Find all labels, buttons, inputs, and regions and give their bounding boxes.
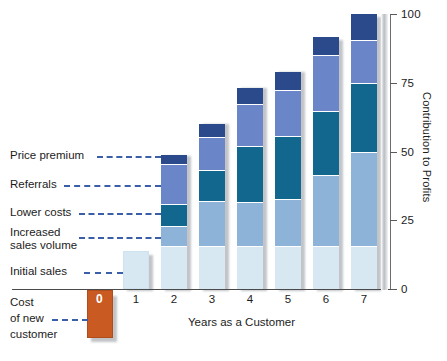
segment-price-premium: [351, 14, 377, 40]
segment-lower-costs: [351, 83, 377, 152]
legend-label-increased-sales-volume-line2: sales volume: [10, 239, 77, 252]
bar-year-2[interactable]: [161, 155, 187, 289]
segment-initial-sales: [237, 246, 263, 289]
bar-value-label-year-0: 0: [96, 292, 103, 306]
bar-year-3[interactable]: [199, 124, 225, 289]
segment-increased-sales-volume: [199, 201, 225, 246]
segment-referrals: [237, 104, 263, 146]
x-tick-label-3: 3: [200, 293, 224, 305]
y-tick-label-100: 100: [401, 8, 421, 20]
y-tick-100: [390, 14, 397, 15]
segment-lower-costs: [313, 111, 339, 175]
segment-price-premium: [275, 72, 301, 90]
segment-initial-sales: [161, 246, 187, 289]
segment-initial-sales: [275, 246, 301, 289]
chart-figure: 0: [0, 0, 447, 361]
plot-area: 0: [0, 0, 447, 361]
segment-price-premium: [313, 37, 339, 55]
segment-lower-costs: [237, 146, 263, 202]
segment-referrals: [351, 40, 377, 83]
y-tick-25: [390, 220, 397, 221]
segment-referrals: [275, 90, 301, 136]
segment-increased-sales-volume: [275, 199, 301, 246]
leader-line-initial-sales: [84, 272, 123, 274]
bar-year-1[interactable]: [123, 251, 149, 289]
legend-label-referrals: Referrals: [10, 178, 57, 191]
segment-price-premium: [161, 155, 187, 164]
segment-initial-sales: [313, 246, 339, 289]
x-tick-label-4: 4: [238, 293, 262, 305]
y-tick-0: [390, 289, 397, 290]
legend-label-price-premium: Price premium: [10, 149, 84, 162]
segment-referrals: [313, 55, 339, 111]
y-tick-label-0: 0: [401, 283, 408, 295]
bar-year-4[interactable]: [237, 88, 263, 289]
segment-lower-costs: [199, 170, 225, 201]
y-tick-label-25: 25: [401, 214, 414, 226]
x-tick-label-2: 2: [162, 293, 186, 305]
segment-referrals: [199, 137, 225, 170]
segment-initial-sales: [199, 246, 225, 289]
x-tick-label-1: 1: [124, 293, 148, 305]
legend-label-lower-costs: Lower costs: [10, 206, 71, 219]
legend-label-increased-sales-volume-line1: Increased: [10, 226, 61, 239]
y-axis-gradient-band: [381, 14, 388, 290]
legend-label-cost-line3: customer: [10, 328, 57, 341]
segment-lower-costs: [275, 136, 301, 199]
leader-line-cost-of-new-customer: [52, 319, 88, 321]
leader-line-referrals: [64, 185, 161, 187]
y-tick-50: [390, 152, 397, 153]
y-tick-label-75: 75: [401, 77, 414, 89]
bar-year-7[interactable]: [351, 14, 377, 289]
x-axis-title: Years as a Customer: [188, 316, 295, 328]
leader-line-lower-costs: [79, 213, 161, 215]
segment-referrals: [161, 164, 187, 204]
x-tick-label-6: 6: [314, 293, 338, 305]
bar-year-5[interactable]: [275, 72, 301, 289]
segment-increased-sales-volume: [161, 226, 187, 246]
x-tick-label-5: 5: [276, 293, 300, 305]
segment-increased-sales-volume: [313, 175, 339, 246]
legend-label-cost-line2: of new: [10, 312, 44, 325]
segment-increased-sales-volume: [237, 202, 263, 246]
segment-increased-sales-volume: [351, 152, 377, 246]
segment-price-premium: [199, 124, 225, 137]
leader-line-price-premium: [97, 156, 161, 158]
segment-price-premium: [237, 88, 263, 104]
segment-initial-sales: [123, 251, 149, 289]
bar-year-6[interactable]: [313, 37, 339, 289]
x-tick-label-7: 7: [352, 293, 376, 305]
segment-initial-sales: [351, 246, 377, 289]
leader-line-increased-sales-volume: [79, 237, 161, 239]
segment-lower-costs: [161, 204, 187, 226]
x-axis-line: [12, 289, 397, 290]
y-axis-title: Contribution to Profits: [421, 92, 433, 202]
legend-label-initial-sales: Initial sales: [10, 265, 67, 278]
legend-label-cost-line1: Cost: [10, 296, 34, 309]
y-tick-75: [390, 83, 397, 84]
y-tick-label-50: 50: [401, 146, 414, 158]
